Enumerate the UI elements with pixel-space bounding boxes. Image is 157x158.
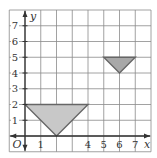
tick-labels: 145671234567Oxy: [11, 10, 151, 151]
x-axis-label: x: [144, 138, 151, 151]
small-triangle: [104, 57, 136, 73]
x-tick-label: 7: [132, 139, 138, 150]
x-tick-label: 6: [116, 139, 122, 150]
y-tick-label: 3: [12, 83, 18, 94]
y-tick-label: 4: [12, 68, 18, 79]
y-axis-arrow-up-icon: [23, 11, 28, 17]
x-tick-label: 1: [38, 139, 44, 150]
x-tick-label: 4: [85, 139, 91, 150]
y-tick-label: 1: [12, 115, 18, 126]
x-tick-label: 5: [101, 139, 107, 150]
y-axis-arrow-down-icon: [23, 145, 28, 151]
axes: [10, 11, 150, 151]
y-tick-label: 6: [12, 36, 18, 47]
y-tick-label: 5: [12, 52, 18, 63]
coordinate-plane: 145671234567Oxy: [0, 0, 157, 158]
shapes: [25, 57, 135, 136]
y-axis-label: y: [29, 10, 37, 23]
grid-lines: [9, 10, 151, 152]
y-tick-label: 7: [12, 20, 18, 31]
y-tick-label: 2: [12, 99, 18, 110]
origin-label: O: [12, 138, 21, 151]
